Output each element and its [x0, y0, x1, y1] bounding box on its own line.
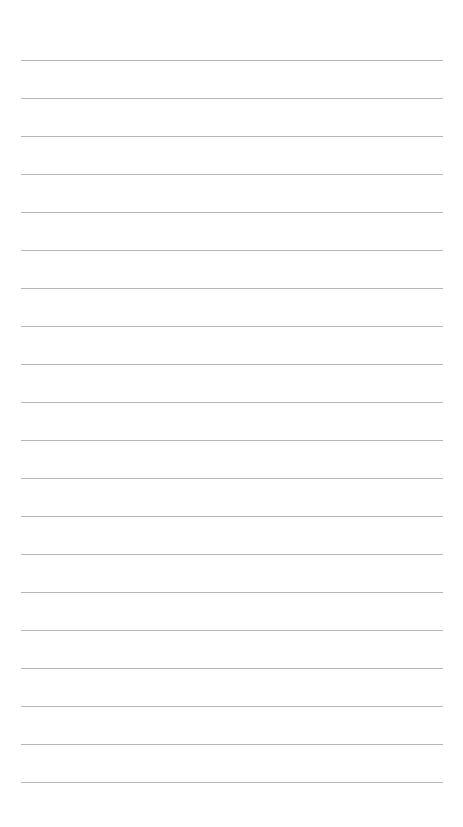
ruled-line — [21, 516, 443, 517]
ruled-line — [21, 174, 443, 175]
ruled-line — [21, 706, 443, 707]
ruled-line — [21, 592, 443, 593]
ruled-line — [21, 364, 443, 365]
ruled-line — [21, 402, 443, 403]
ruled-line — [21, 744, 443, 745]
ruled-line — [21, 478, 443, 479]
ruled-line — [21, 668, 443, 669]
ruled-line — [21, 782, 443, 783]
ruled-line — [21, 554, 443, 555]
ruled-line — [21, 250, 443, 251]
ruled-line — [21, 630, 443, 631]
lined-paper-page — [0, 0, 463, 827]
ruled-line — [21, 98, 443, 99]
ruled-line — [21, 212, 443, 213]
ruled-line — [21, 288, 443, 289]
ruled-line — [21, 326, 443, 327]
ruled-line — [21, 440, 443, 441]
ruled-line — [21, 60, 443, 61]
ruled-line — [21, 136, 443, 137]
